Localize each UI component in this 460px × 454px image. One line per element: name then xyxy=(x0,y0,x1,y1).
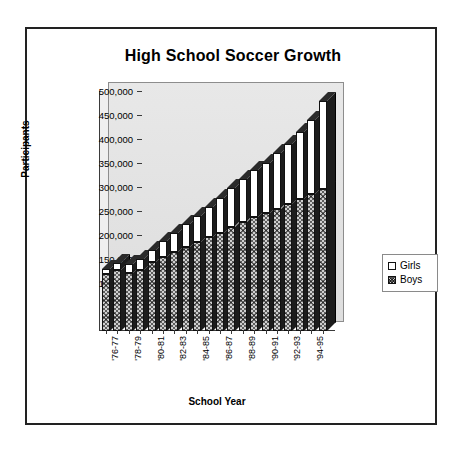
bar-segment-boys xyxy=(307,194,315,331)
bar-segment-girls xyxy=(262,163,270,213)
bar-segment-girls xyxy=(113,263,121,270)
x-axis-tick-label: '88-89 xyxy=(247,336,257,361)
bar-column xyxy=(250,170,258,331)
x-axis-tick-label: '86-87 xyxy=(224,336,234,361)
bar-segment-boys xyxy=(262,213,270,331)
bar-segment-girls xyxy=(193,216,201,242)
bar-segment-boys xyxy=(113,270,121,331)
x-axis-tick xyxy=(243,330,244,334)
x-axis-tick xyxy=(300,330,301,334)
chart-frame: High School Soccer Growth Participants 5… xyxy=(25,27,437,425)
bar-column xyxy=(273,153,281,331)
bar-segment-girls xyxy=(227,188,235,226)
bar-column xyxy=(148,250,156,331)
bar-column xyxy=(319,101,327,331)
bar-segment-boys xyxy=(284,204,292,331)
x-axis-tick xyxy=(266,330,267,334)
legend-item-boys: Boys xyxy=(388,273,432,287)
x-axis-tick xyxy=(163,330,164,334)
bar-side-boys xyxy=(327,180,336,331)
bar-column xyxy=(159,241,167,331)
bar-column xyxy=(170,233,178,331)
bar-segment-boys xyxy=(193,242,201,331)
bar-segment-girls xyxy=(148,250,156,262)
x-axis-tick xyxy=(174,330,175,334)
bar-segment-girls xyxy=(239,179,247,221)
bar-segment-boys xyxy=(250,217,258,331)
bar-column xyxy=(239,179,247,331)
bar-segment-boys xyxy=(216,233,224,331)
bar-column xyxy=(125,264,133,331)
bar-segment-boys xyxy=(136,270,144,331)
x-axis-tick xyxy=(197,330,198,334)
legend-swatch-boys xyxy=(388,276,396,284)
bar-segment-boys xyxy=(170,252,178,331)
bar-segment-boys xyxy=(148,262,156,331)
bar-segment-girls xyxy=(182,224,190,247)
bar-column xyxy=(216,198,224,331)
bar-segment-boys xyxy=(319,189,327,331)
plot-area: 500,000450,000400,000350,000300,000250,0… xyxy=(99,82,344,347)
y-axis-title: Participants xyxy=(20,120,31,177)
bar-segment-boys xyxy=(296,199,304,331)
bar-column xyxy=(284,144,292,331)
chart-page: High School Soccer Growth Participants 5… xyxy=(0,0,460,454)
bar-column xyxy=(296,132,304,331)
bar-segment-boys xyxy=(227,227,235,331)
x-axis-tick xyxy=(231,330,232,334)
bar-column xyxy=(227,188,235,331)
bar-column xyxy=(205,207,213,331)
bar-segment-girls xyxy=(273,153,281,208)
x-axis-labels: School Year '76-77'78-79'80-81'82-83'84-… xyxy=(99,334,344,396)
bar-segment-girls xyxy=(307,120,315,194)
x-axis-tick xyxy=(220,330,221,334)
x-axis-tick-label: '82-83 xyxy=(178,336,188,361)
bar-segment-girls xyxy=(205,207,213,237)
bar-segment-boys xyxy=(239,222,247,331)
bar-column xyxy=(262,163,270,331)
bar-segment-boys xyxy=(125,273,133,331)
chart-legend: Girls Boys xyxy=(382,254,438,292)
x-axis-tick xyxy=(277,330,278,334)
bar-column xyxy=(136,259,144,331)
bar-segment-girls xyxy=(125,264,133,273)
bar-segment-girls xyxy=(319,101,327,190)
bar-segment-boys xyxy=(102,274,110,331)
bar-column xyxy=(182,224,190,331)
x-axis-tick-label: '90-91 xyxy=(270,336,280,361)
x-axis-tick xyxy=(254,330,255,334)
x-axis-tick xyxy=(323,330,324,334)
chart-title: High School Soccer Growth xyxy=(27,47,439,65)
x-axis-tick-label: '78-79 xyxy=(133,336,143,361)
x-axis-tick xyxy=(106,330,107,334)
x-axis-tick-label: '80-81 xyxy=(156,336,166,361)
x-axis-tick-label: '84-85 xyxy=(201,336,211,361)
x-axis-tick xyxy=(311,330,312,334)
bar-segment-girls xyxy=(250,170,258,217)
bar-segment-girls xyxy=(296,132,304,199)
x-axis-tick-label: '94-95 xyxy=(315,336,325,361)
bar-segment-girls xyxy=(216,198,224,233)
bars-group xyxy=(99,82,344,347)
bar-segment-girls xyxy=(170,233,178,252)
bar-segment-boys xyxy=(273,209,281,331)
x-axis-tick xyxy=(186,330,187,334)
bar-side-girls xyxy=(327,92,336,190)
x-axis-title: School Year xyxy=(99,396,335,407)
x-axis-tick-label: '92-93 xyxy=(292,336,302,361)
x-axis-tick xyxy=(288,330,289,334)
bar-segment-girls xyxy=(159,241,167,257)
legend-swatch-girls xyxy=(388,262,396,270)
bar-column xyxy=(307,120,315,331)
legend-label-girls: Girls xyxy=(400,259,421,273)
bar-segment-boys xyxy=(182,247,190,331)
bar-segment-boys xyxy=(159,257,167,331)
bar-segment-girls xyxy=(102,269,110,275)
bar-column xyxy=(102,269,110,331)
x-axis-tick xyxy=(140,330,141,334)
x-axis-tick xyxy=(117,330,118,334)
bar-segment-girls xyxy=(284,144,292,204)
x-axis-tick xyxy=(129,330,130,334)
x-axis-tick xyxy=(209,330,210,334)
bar-column xyxy=(193,216,201,331)
